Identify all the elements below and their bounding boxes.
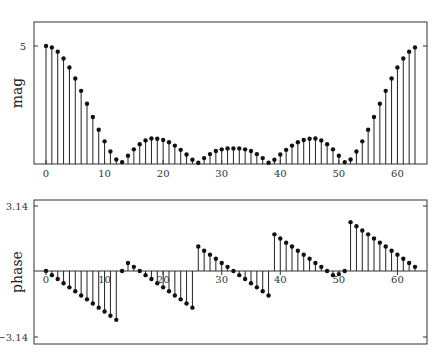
stem-marker bbox=[278, 236, 282, 240]
ylabel-phase: phase bbox=[9, 251, 25, 293]
stem-marker bbox=[337, 154, 341, 158]
stem-marker bbox=[225, 265, 229, 269]
stem-marker bbox=[395, 65, 399, 69]
stem-marker bbox=[231, 269, 235, 273]
stem-marker bbox=[202, 156, 206, 160]
stem-marker bbox=[302, 138, 306, 142]
stem-marker bbox=[179, 148, 183, 152]
stem-marker bbox=[167, 140, 171, 144]
stem-marker bbox=[354, 149, 358, 153]
stem-marker bbox=[378, 102, 382, 106]
stem-marker bbox=[67, 65, 71, 69]
stem-marker bbox=[108, 149, 112, 153]
stem-marker bbox=[114, 318, 118, 322]
stem-marker bbox=[67, 285, 71, 289]
stem-marker bbox=[61, 281, 65, 285]
stem-marker bbox=[102, 309, 106, 313]
stem-marker bbox=[61, 56, 65, 60]
stem-marker bbox=[102, 139, 106, 143]
ylabel-mag: mag bbox=[9, 78, 25, 109]
stem-marker bbox=[307, 257, 311, 261]
stem-marker bbox=[307, 137, 311, 141]
stem-marker bbox=[50, 45, 54, 49]
stem-marker bbox=[208, 152, 212, 156]
stem-marker bbox=[220, 261, 224, 265]
stem-marker bbox=[384, 244, 388, 248]
stem-marker bbox=[325, 142, 329, 146]
stem-marker bbox=[366, 128, 370, 132]
stem-marker bbox=[149, 136, 153, 140]
stem-marker bbox=[343, 269, 347, 273]
stem-marker bbox=[378, 240, 382, 244]
stem-marker bbox=[348, 157, 352, 161]
stem-marker bbox=[389, 76, 393, 80]
stem-marker bbox=[161, 138, 165, 142]
stem-marker bbox=[372, 115, 376, 119]
stem-marker bbox=[173, 143, 177, 147]
stem-marker bbox=[190, 158, 194, 162]
stem-marker bbox=[395, 252, 399, 256]
stem-marker bbox=[91, 301, 95, 305]
stem-marker bbox=[266, 293, 270, 297]
stem-marker bbox=[237, 273, 241, 277]
stem-marker bbox=[348, 220, 352, 224]
xtick-label: 30 bbox=[215, 168, 228, 179]
stem-marker bbox=[196, 244, 200, 248]
stem-marker bbox=[319, 138, 323, 142]
xtick-label: 0 bbox=[43, 168, 49, 179]
stem-marker bbox=[155, 137, 159, 141]
stem-marker bbox=[313, 136, 317, 140]
stem-marker bbox=[149, 277, 153, 281]
stem-marker bbox=[401, 56, 405, 60]
stem-marker bbox=[214, 257, 218, 261]
stem-marker bbox=[97, 305, 101, 309]
stem-marker bbox=[290, 244, 294, 248]
stem-marker bbox=[85, 297, 89, 301]
stem-marker bbox=[237, 146, 241, 150]
stem-marker bbox=[161, 285, 165, 289]
stem-marker bbox=[360, 228, 364, 232]
stem-marker bbox=[413, 45, 417, 49]
stem-marker bbox=[407, 49, 411, 53]
stem-marker bbox=[85, 102, 89, 106]
stem-marker bbox=[120, 160, 124, 164]
stem-marker bbox=[202, 249, 206, 253]
stem-marker bbox=[372, 236, 376, 240]
stem-marker bbox=[220, 147, 224, 151]
stem-marker bbox=[97, 128, 101, 132]
ytick-label-pi: 3.14 bbox=[6, 201, 28, 212]
stem-marker bbox=[73, 76, 77, 80]
stem-marker bbox=[255, 152, 259, 156]
stem-marker bbox=[266, 161, 270, 165]
xtick-label: 60 bbox=[391, 168, 404, 179]
stem-marker bbox=[401, 257, 405, 261]
stem-marker bbox=[272, 158, 276, 162]
ytick-label-neg-pi: −3.14 bbox=[0, 332, 28, 343]
stem-marker bbox=[126, 154, 130, 158]
stem-marker bbox=[313, 261, 317, 265]
stem-marker bbox=[56, 49, 60, 53]
stem-marker bbox=[114, 157, 118, 161]
stem-marker bbox=[143, 273, 147, 277]
stem-marker bbox=[179, 297, 183, 301]
xtick-label: 0 bbox=[43, 274, 49, 285]
stem-marker bbox=[243, 147, 247, 151]
dft-stem-plots: 5 mag 0102030405060 3.14 −3.14 phase 010… bbox=[0, 0, 442, 358]
stem-marker bbox=[225, 146, 229, 150]
magnitude-xticks: 0102030405060 bbox=[43, 160, 404, 179]
stem-marker bbox=[249, 281, 253, 285]
xtick-label: 40 bbox=[274, 168, 287, 179]
stem-marker bbox=[331, 147, 335, 151]
stem-marker bbox=[126, 261, 130, 265]
stem-marker bbox=[196, 161, 200, 165]
xtick-label: 10 bbox=[98, 274, 111, 285]
stem-marker bbox=[120, 269, 124, 273]
xtick-label: 60 bbox=[391, 274, 404, 285]
xtick-label: 40 bbox=[274, 274, 287, 285]
stem-marker bbox=[56, 277, 60, 281]
stem-marker bbox=[261, 289, 265, 293]
stem-marker bbox=[407, 261, 411, 265]
xtick-label: 50 bbox=[332, 168, 345, 179]
stem-marker bbox=[389, 249, 393, 253]
xtick-label: 20 bbox=[157, 274, 170, 285]
